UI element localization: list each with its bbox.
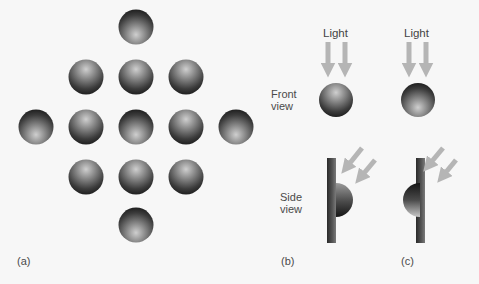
figure-canvas (0, 0, 479, 284)
sphere-icon (119, 10, 154, 45)
side-light-arrows-icon (428, 148, 456, 177)
light-arrows-icon (409, 42, 426, 70)
panel-a-sphere-grid (19, 10, 254, 243)
panel-c (401, 42, 456, 243)
front-view-label-line1: Front (271, 88, 297, 100)
sphere-icon (169, 60, 204, 95)
light-label-c: Light (404, 27, 429, 39)
sphere-icon (69, 60, 104, 95)
panel-b-label: (b) (281, 255, 294, 267)
sphere-icon (69, 110, 104, 145)
side-light-arrows-icon (346, 148, 375, 178)
side-view-label-line2: view (280, 203, 302, 215)
sphere-icon (69, 160, 104, 195)
sphere-icon (19, 110, 54, 145)
sphere-icon (169, 110, 204, 145)
light-arrows-icon (328, 42, 345, 70)
side-view-dent-icon (403, 183, 420, 217)
sphere-icon (219, 110, 254, 145)
front-view-label: Front view (271, 88, 297, 112)
sphere-icon (119, 60, 154, 95)
sphere-icon (119, 208, 154, 243)
side-view-label-line1: Side (280, 191, 302, 203)
panel-a-label: (a) (17, 255, 30, 267)
side-view-wall-icon (327, 158, 336, 243)
front-view-label-line2: view (271, 100, 297, 112)
front-view-sphere-icon (319, 83, 353, 117)
sphere-icon (119, 160, 154, 195)
panel-b (319, 42, 375, 243)
side-view-label: Side view (280, 191, 302, 215)
sphere-icon (169, 160, 204, 195)
front-view-sphere-icon (401, 83, 435, 117)
side-view-bump-icon (336, 183, 353, 217)
light-label-b: Light (323, 27, 348, 39)
panel-c-label: (c) (401, 255, 414, 267)
sphere-icon (119, 110, 154, 145)
